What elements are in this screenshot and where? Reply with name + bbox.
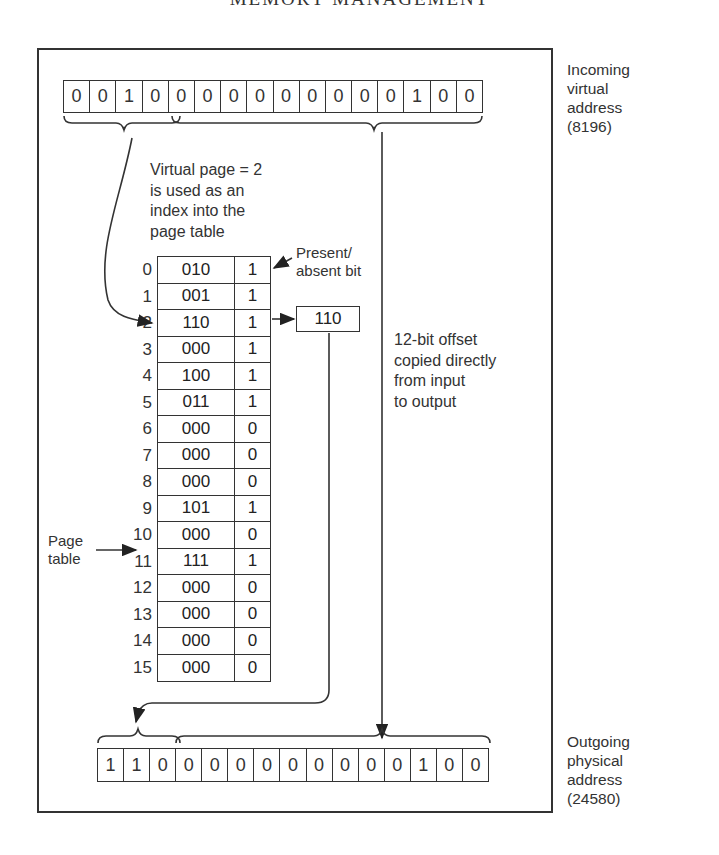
connectors — [0, 0, 719, 855]
present-absent-pointer — [274, 258, 292, 268]
output-offset-brace — [176, 729, 490, 743]
virtual-page-arrow — [105, 138, 152, 323]
page-bits-brace — [64, 116, 180, 130]
frame-bits-brace — [98, 729, 180, 743]
offset-bits-brace — [172, 116, 482, 130]
frame-to-output-arrow — [136, 333, 329, 722]
